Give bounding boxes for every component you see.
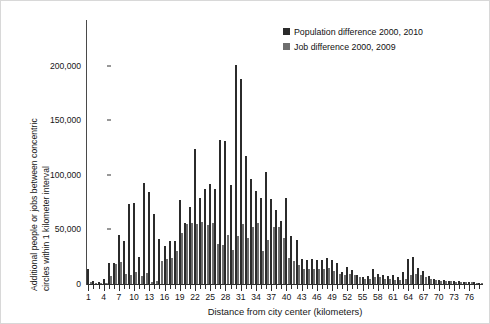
x-axis-tick-mark (119, 285, 120, 291)
x-axis-tick-label: 16 (160, 292, 170, 302)
x-axis-tick-mark (281, 285, 282, 289)
bar-jobs (384, 279, 386, 284)
x-axis-tick-mark (368, 285, 369, 289)
x-axis-tick-label: 43 (297, 292, 307, 302)
x-axis-tick-mark (276, 285, 277, 289)
x-axis-tick-mark (256, 285, 257, 291)
bar-jobs (191, 223, 193, 284)
x-axis-tick-mark (322, 285, 323, 289)
x-axis-tick-mark (99, 285, 100, 289)
bar-jobs (283, 238, 285, 284)
y-axis-tick-label: 100,000 (29, 170, 81, 180)
bar-jobs (141, 276, 143, 284)
bar-population (128, 204, 130, 284)
bar-jobs (156, 281, 158, 284)
x-axis-tick-mark (434, 285, 435, 289)
bar-jobs (110, 276, 112, 284)
y-axis-tick-label: 50,000 (29, 224, 81, 234)
bar-jobs (339, 274, 341, 284)
bar-population (153, 214, 155, 284)
bar-jobs (288, 258, 290, 284)
x-axis-tick-mark (479, 285, 480, 289)
bar-jobs (95, 283, 97, 284)
bar-jobs (273, 227, 275, 284)
bar-jobs (217, 244, 219, 284)
x-axis-tick-mark (124, 285, 125, 289)
x-axis-tick-mark (398, 285, 399, 289)
bar-jobs (201, 222, 203, 284)
bar-jobs (252, 227, 254, 284)
x-axis-tick-label: 28 (221, 292, 231, 302)
legend-swatch-jobs-icon (283, 43, 290, 50)
x-axis-tick-mark (342, 285, 343, 289)
x-axis-tick-mark (109, 285, 110, 289)
x-axis-tick-mark (241, 285, 242, 291)
x-axis-tick-mark (474, 285, 475, 289)
x-axis-tick-mark (180, 285, 181, 291)
bar-jobs (425, 277, 427, 284)
bar-jobs (440, 281, 442, 284)
x-axis-tick-mark (363, 285, 364, 291)
bar-jobs (176, 251, 178, 284)
x-axis-tick-mark (317, 285, 318, 291)
x-axis-tick-mark (378, 285, 379, 291)
bar-jobs (227, 235, 229, 284)
bar-jobs (430, 279, 432, 284)
x-axis-tick-mark (297, 285, 298, 289)
bar-jobs (161, 261, 163, 284)
bar-jobs (471, 282, 473, 284)
bar-jobs (420, 275, 422, 284)
x-axis-tick-mark (210, 285, 211, 291)
bar-jobs (298, 265, 300, 284)
bar-jobs (369, 279, 371, 284)
x-axis-tick-mark (347, 285, 348, 291)
x-axis-tick-mark (327, 285, 328, 289)
x-axis-tick-mark (200, 285, 201, 289)
x-axis-tick-label: 22 (190, 292, 200, 302)
bar-jobs (323, 269, 325, 284)
bar-jobs (186, 224, 188, 284)
bar-jobs (399, 280, 401, 284)
x-axis-tick-mark (449, 285, 450, 289)
x-axis-tick-label: 7 (116, 292, 121, 302)
x-axis-tick-label: 55 (358, 292, 368, 302)
x-axis-tick-mark (439, 285, 440, 291)
x-axis-tick-mark (454, 285, 455, 291)
bar-jobs (90, 282, 92, 284)
x-axis-tick-mark (170, 285, 171, 289)
bar-jobs (267, 240, 269, 284)
x-axis-tick-mark (332, 285, 333, 291)
x-axis-tick-label: 67 (419, 292, 429, 302)
bar-jobs (146, 273, 148, 284)
bar-jobs (354, 275, 356, 284)
legend-item-population: Population difference 2000, 2010 (283, 25, 423, 38)
x-axis-tick-mark (134, 285, 135, 291)
x-axis-tick-mark (144, 285, 145, 289)
x-axis-tick-mark (423, 285, 424, 291)
x-axis-tick-label: 25 (205, 292, 215, 302)
bar-jobs (278, 227, 280, 284)
bar-jobs (405, 279, 407, 284)
x-axis-tick-label: 49 (327, 292, 337, 302)
x-axis-tick-label: 58 (373, 292, 383, 302)
bar-population (143, 183, 145, 284)
x-axis-tick-mark (312, 285, 313, 289)
chart-figure: Additional people or jobs between concen… (0, 0, 490, 324)
bar-jobs (257, 223, 259, 284)
x-axis-title: Distance from city center (kilometers) (87, 306, 483, 317)
bar-jobs (455, 282, 457, 284)
bar-jobs (151, 282, 153, 284)
x-axis-tick-label: 73 (449, 292, 459, 302)
plot-area (87, 44, 483, 284)
bar-jobs (476, 283, 478, 284)
x-axis-tick-mark (88, 285, 89, 291)
legend-label-population: Population difference 2000, 2010 (294, 27, 423, 37)
bar-jobs (415, 274, 417, 284)
bar-jobs (237, 236, 239, 284)
legend-item-jobs: Job difference 2000, 2009 (283, 40, 423, 53)
bar-jobs (344, 275, 346, 284)
x-axis-tick-mark (114, 285, 115, 289)
x-axis-tick-mark (357, 285, 358, 289)
bar-jobs (135, 272, 137, 284)
bar-jobs (105, 283, 107, 284)
